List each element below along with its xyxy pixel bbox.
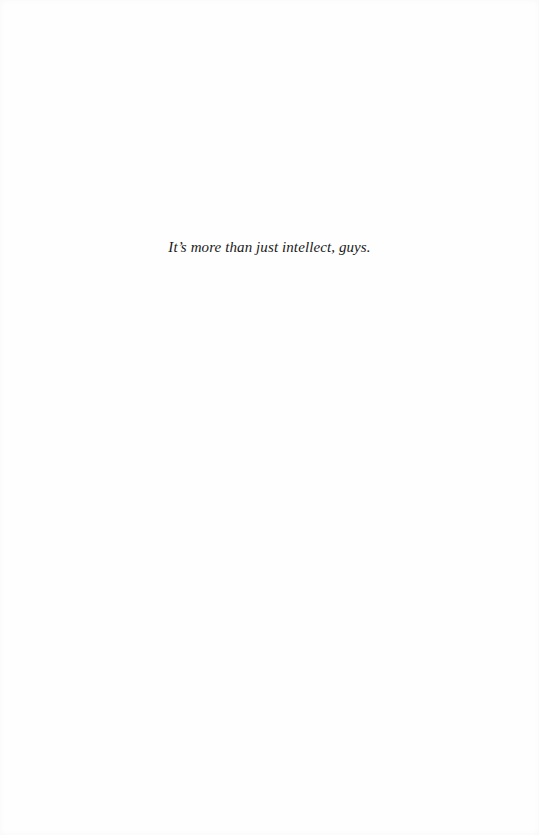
- epigraph-text: It’s more than just intellect, guys.: [0, 237, 539, 257]
- book-page: It’s more than just intellect, guys.: [0, 0, 539, 835]
